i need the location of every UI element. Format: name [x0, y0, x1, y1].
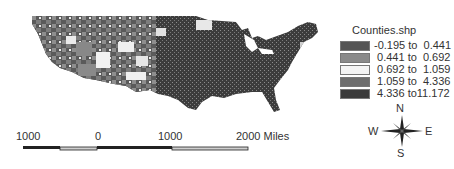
legend-label: -0.195 to 0.441 [374, 39, 451, 51]
scale-bar: 1000 0 1000 2000 Miles [0, 128, 330, 158]
compass-east-label: E [425, 125, 432, 137]
legend-row: 4.336 to11.172 [338, 88, 454, 100]
scale-label: 0 [95, 130, 101, 142]
legend-swatch [340, 65, 370, 75]
legend-swatch [340, 77, 370, 87]
scale-bar-graphic [22, 144, 254, 154]
legend-label: 4.336 to11.172 [374, 87, 450, 99]
compass-rose-icon [380, 114, 424, 148]
compass-west-label: W [368, 125, 378, 137]
compass-south-label: S [397, 147, 404, 159]
legend-swatch [340, 89, 370, 99]
us-counties-map [26, 12, 328, 114]
scale-label: 1000 [16, 130, 40, 142]
legend-title: Counties.shp [352, 24, 416, 36]
legend-swatch [340, 53, 370, 63]
scale-label: 2000 Miles [236, 130, 289, 142]
legend-label: 0.441 to 0.692 [374, 51, 450, 63]
legend-swatch [340, 41, 370, 51]
legend-label: 0.692 to 1.059 [374, 63, 450, 75]
legend-label: 1.059 to 4.336 [374, 75, 450, 87]
us-map-graphic [26, 12, 328, 114]
scale-label: 1000 [158, 130, 182, 142]
compass-north-label: N [396, 102, 404, 114]
north-arrow: N W E S [366, 102, 436, 164]
